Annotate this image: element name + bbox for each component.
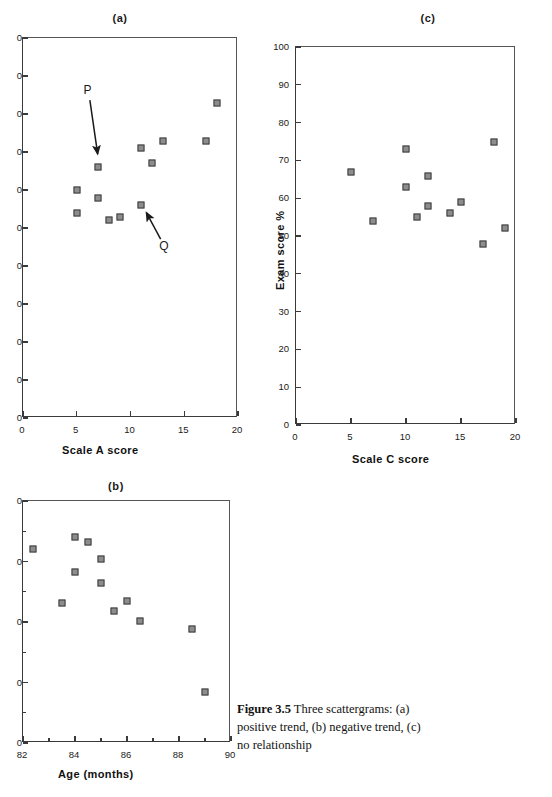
scatterplot-b: (b) Age (months) 000008284868890	[0, 480, 250, 780]
data-point-marker	[403, 146, 410, 153]
y-axis-tick-label: 0	[0, 222, 22, 233]
x-axis-tick-label: 15	[455, 431, 466, 442]
y-axis-tick-label: 0	[0, 676, 22, 687]
y-axis-tick	[296, 273, 301, 274]
x-axis-tick	[515, 418, 516, 423]
y-axis-tick-label: 0	[0, 495, 22, 506]
y-axis-tick-label: 0	[0, 298, 22, 309]
y-axis-tick	[23, 531, 26, 532]
y-axis-tick	[296, 46, 301, 47]
data-point-marker	[502, 225, 509, 232]
y-axis-tick	[296, 311, 301, 312]
y-axis-tick-label: 60	[261, 192, 289, 203]
x-axis-minor-tick	[204, 738, 205, 741]
data-point-marker	[414, 214, 421, 221]
annotation-label-p: P	[84, 83, 92, 97]
annotation-arrow-q	[146, 213, 160, 240]
data-point-marker	[98, 580, 105, 587]
x-axis-tick	[22, 736, 23, 741]
x-axis-tick-label: 0	[292, 431, 297, 442]
scatterplot-a: (a) Scale A score 0000000000005101520PQ	[0, 0, 250, 470]
x-axis-tick-label: 0	[19, 424, 24, 435]
y-axis-tick-label: 70	[261, 154, 289, 165]
data-point-marker	[30, 546, 37, 553]
y-axis-tick-label: 80	[261, 116, 289, 127]
data-point-marker	[348, 168, 355, 175]
x-axis-tick-label: 88	[173, 749, 184, 760]
y-axis-tick-label: 100	[261, 41, 289, 52]
y-axis-tick	[23, 500, 28, 501]
y-axis-tick-label: 0	[0, 70, 22, 81]
y-axis-tick-label: 90	[261, 78, 289, 89]
data-point-marker	[72, 569, 79, 576]
x-axis-tick	[126, 736, 127, 741]
data-point-marker	[447, 210, 454, 217]
x-axis-tick-label: 15	[178, 424, 189, 435]
y-axis-tick	[23, 561, 28, 562]
y-axis-tick	[296, 424, 301, 425]
y-axis-tick-label: 50	[261, 230, 289, 241]
y-axis-tick-label: 0	[0, 260, 22, 271]
panel-b-title: (b)	[88, 480, 144, 492]
x-axis-tick-label: 20	[510, 431, 521, 442]
data-point-marker	[425, 172, 432, 179]
x-axis-tick-label: 84	[69, 749, 80, 760]
x-axis-tick-label: 10	[124, 424, 135, 435]
y-axis-tick-label: 10	[261, 381, 289, 392]
y-axis-tick	[23, 621, 28, 622]
y-axis-tick-label: 0	[0, 412, 22, 423]
y-axis-tick	[296, 387, 301, 388]
figure-caption-lead: Figure 3.5	[237, 702, 291, 716]
y-axis-tick-label: 0	[0, 108, 22, 119]
data-point-marker	[425, 202, 432, 209]
y-axis-tick-label: 0	[0, 32, 22, 43]
y-axis-tick	[296, 84, 301, 85]
y-axis-tick-label: 40	[261, 267, 289, 278]
y-axis-tick-label: 0	[0, 336, 22, 347]
y-axis-tick-label: 0	[0, 184, 22, 195]
y-axis-tick-label: 0	[261, 419, 289, 430]
y-axis-tick	[296, 349, 301, 350]
y-axis-tick	[23, 682, 28, 683]
y-axis-tick	[23, 652, 26, 653]
panel-a-title: (a)	[92, 12, 148, 24]
x-axis-tick-label: 10	[400, 431, 411, 442]
y-axis-tick	[296, 198, 301, 199]
y-axis-tick-label: 20	[261, 343, 289, 354]
y-axis-tick-label: 0	[0, 555, 22, 566]
x-axis-minor-tick	[100, 738, 101, 741]
y-axis-tick	[23, 591, 26, 592]
y-axis-tick	[23, 742, 28, 743]
data-point-marker	[189, 626, 196, 633]
y-axis-tick-label: 0	[0, 146, 22, 157]
x-axis-tick-label: 20	[232, 424, 243, 435]
data-point-marker	[137, 617, 144, 624]
annotation-arrows	[23, 38, 238, 418]
figure-3-5: (a) Scale A score 0000000000005101520PQ …	[0, 0, 552, 797]
y-axis-tick	[296, 235, 301, 236]
y-axis-tick	[23, 712, 26, 713]
panel-b-x-axis-title: Age (months)	[58, 768, 134, 780]
data-point-marker	[480, 240, 487, 247]
y-axis-tick-label: 0	[0, 737, 22, 748]
panel-a-plot-area	[22, 37, 237, 417]
y-axis-tick-label: 0	[0, 374, 22, 385]
data-point-marker	[98, 556, 105, 563]
data-point-marker	[111, 608, 118, 615]
data-point-marker	[458, 198, 465, 205]
data-point-marker	[72, 534, 79, 541]
scatterplot-c: (c) Exam score % Scale C score 010203040…	[262, 0, 552, 480]
x-axis-tick	[460, 418, 461, 423]
data-point-marker	[403, 183, 410, 190]
panel-c-title: (c)	[400, 12, 456, 24]
y-axis-tick-label: 30	[261, 305, 289, 316]
x-axis-tick	[74, 736, 75, 741]
data-point-marker	[491, 138, 498, 145]
panel-a-x-axis-title: Scale A score	[62, 444, 139, 456]
y-axis-tick-label: 0	[0, 616, 22, 627]
x-axis-tick-label: 5	[73, 424, 78, 435]
x-axis-tick	[405, 418, 406, 423]
x-axis-tick	[230, 736, 231, 741]
x-axis-minor-tick	[152, 738, 153, 741]
panel-c-x-axis-title: Scale C score	[352, 453, 429, 465]
